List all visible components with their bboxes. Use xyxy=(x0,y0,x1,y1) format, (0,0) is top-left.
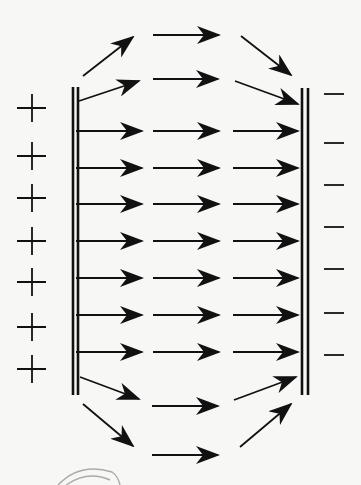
field-lines xyxy=(76,35,298,455)
plus-charge-icon xyxy=(17,355,46,383)
negative-plate xyxy=(302,88,308,395)
plus-charge-icon xyxy=(17,313,46,341)
pencil-sketch-curve xyxy=(58,469,120,485)
negative-charges xyxy=(324,94,344,355)
field-arrow-icon xyxy=(80,377,139,399)
plus-charge-icon xyxy=(17,142,46,170)
positive-charges xyxy=(17,94,46,383)
field-arrow-icon xyxy=(235,81,298,104)
field-arrow-icon xyxy=(83,404,133,446)
plus-charge-icon xyxy=(17,227,46,255)
sketch-stroke xyxy=(58,469,120,485)
field-arrow-icon xyxy=(234,377,296,400)
field-arrow-icon xyxy=(241,36,291,75)
plus-charge-icon xyxy=(17,184,46,212)
plus-charge-icon xyxy=(17,268,46,296)
plus-charge-icon xyxy=(17,94,46,122)
field-arrow-icon xyxy=(240,404,291,447)
field-arrow-icon xyxy=(83,37,133,76)
field-arrow-icon xyxy=(79,81,139,101)
sketch-stroke xyxy=(66,476,110,485)
parallel-plate-field-diagram xyxy=(0,0,361,485)
